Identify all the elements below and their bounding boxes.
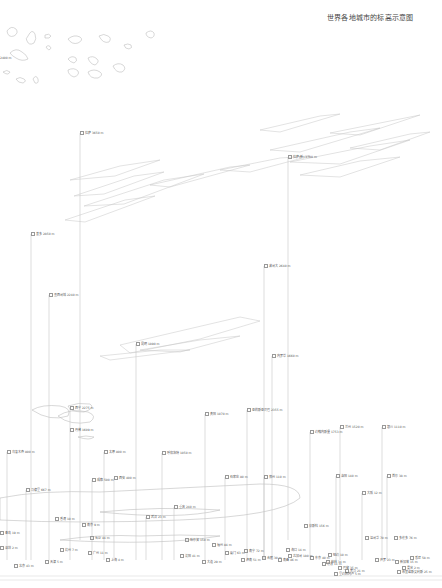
city-name-elevation: 大阪 12 m <box>367 491 382 495</box>
city-name-elevation: 郑州 110 m <box>269 475 286 479</box>
city-elevation-label: 重庆 240 m <box>174 505 196 509</box>
marker-square-icon <box>286 548 290 552</box>
marker-square-icon <box>272 354 276 358</box>
city-elevation-label: 香港 10 m <box>55 517 75 521</box>
city-elevation-label: 温哥华 70 m <box>365 536 388 540</box>
marker-square-icon <box>387 474 391 478</box>
marker-square-icon <box>55 517 59 521</box>
city-elevation-label: 上海 4 m <box>106 558 124 562</box>
city-name-elevation: 新加坡 15 m <box>400 560 418 564</box>
city-name-elevation: 南京 9 m <box>87 523 100 527</box>
city-elevation-label: 济南 51 m <box>241 558 261 562</box>
city-elevation-label: 南昌 46 m <box>278 558 298 562</box>
marker-square-icon <box>212 543 216 547</box>
city-elevation-label: 大连 29 m <box>202 560 222 564</box>
city-name-elevation: 厦门 63 m <box>230 551 245 555</box>
marker-square-icon <box>328 553 332 557</box>
marker-square-icon <box>288 554 292 558</box>
marker-square-icon <box>278 558 282 562</box>
marker-square-icon <box>70 428 74 432</box>
city-name-elevation: 拉萨(新) 3700 m <box>293 155 317 159</box>
marker-square-icon <box>338 566 342 570</box>
city-name-elevation: 贵阳 1070 m <box>210 412 228 416</box>
city-name-elevation: 北京 43 m <box>19 564 34 568</box>
city-elevation-label: 郑州 110 m <box>264 475 286 479</box>
marker-square-icon <box>304 524 308 528</box>
city-elevation-label: 福州 84 m <box>212 543 232 547</box>
marker-square-icon <box>382 425 386 429</box>
city-name-elevation: 南昌 46 m <box>283 558 298 562</box>
city-elevation-label: 西宁 2275 m <box>70 406 93 410</box>
city-elevation-label: 兰州 1520 m <box>340 425 363 429</box>
city-elevation-label: 北京 43 m <box>14 564 34 568</box>
city-name-elevation: 海口 14 m <box>291 548 306 552</box>
city-elevation-label: 首尔 38 m <box>387 474 407 478</box>
marker-square-icon <box>334 572 338 576</box>
city-name-elevation: 哈尔滨 150 m <box>190 538 210 542</box>
city-name-elevation: 沈阳 41 m <box>185 554 200 558</box>
marker-square-icon <box>80 131 84 135</box>
marker-square-icon <box>88 551 92 555</box>
city-elevation-label: 柏林 34 m <box>326 560 346 564</box>
marker-square-icon <box>92 478 96 482</box>
city-elevation-label: 悉尼 58 m <box>410 556 430 560</box>
city-elevation-label: 哈尔滨 150 m <box>185 538 210 542</box>
city-elevation-label: 呼和浩特 1050 m <box>162 451 191 455</box>
city-name-elevation: 马德里 667 m <box>31 488 51 492</box>
elevation-stems <box>7 133 387 560</box>
city-name-elevation: 洛阳 140 m <box>341 474 358 478</box>
city-elevation-label: 开罗 23 m <box>375 558 395 562</box>
city-elevation-label: 南京 9 m <box>82 523 100 527</box>
city-elevation-label: 乌鲁木齐 800 m <box>7 450 35 454</box>
city-elevation-label: 贵阳 1070 m <box>205 412 228 416</box>
city-name-elevation: 福州 84 m <box>217 543 232 547</box>
city-name-elevation: 长沙 44 m <box>95 536 110 540</box>
city-elevation-label: 厦门 63 m <box>225 551 245 555</box>
city-elevation-label: 银川 1110 m <box>382 425 405 429</box>
city-name-elevation: 太原 800 m <box>109 450 126 454</box>
city-name-elevation: 芝加哥 180 m <box>293 554 313 558</box>
marker-square-icon <box>410 556 414 560</box>
city-elevation-label: 大阪 12 m <box>362 491 382 495</box>
city-name-elevation: 基多 2850 m <box>36 232 54 236</box>
city-name-elevation: 温哥华 70 m <box>370 536 388 540</box>
city-name-elevation: 武汉 23 m <box>151 515 166 519</box>
city-name-elevation: 南宁 72 m <box>249 549 264 553</box>
city-elevation-label: 长沙 44 m <box>90 536 110 540</box>
marker-square-icon <box>31 232 35 236</box>
marker-square-icon <box>264 475 268 479</box>
marker-square-icon <box>104 450 108 454</box>
city-name-elevation: 纽约 10 m <box>333 553 348 557</box>
city-name-elevation: 悉尼 58 m <box>415 556 430 560</box>
city-name-elevation: 兰州 1520 m <box>345 425 363 429</box>
city-name-elevation: 亚的斯亚贝巴 2355 m <box>252 408 282 412</box>
marker-square-icon <box>340 425 344 429</box>
city-elevation-label: 杭州 7 m <box>60 548 78 552</box>
city-elevation-label: 深圳 2 m <box>0 546 18 550</box>
marker-square-icon <box>0 546 4 550</box>
city-elevation-label: 纽约 10 m <box>328 553 348 557</box>
marker-square-icon <box>247 408 251 412</box>
city-name-elevation: 西宁 2275 m <box>75 406 93 410</box>
city-elevation-label: 武汉 23 m <box>146 515 166 519</box>
city-elevation-label: 墨西哥城 2240 m <box>49 293 78 297</box>
city-elevation-label: 广州 11 m <box>88 551 108 555</box>
city-name-elevation: 济南 51 m <box>246 558 261 562</box>
city-elevation-label: 内罗毕 1660 m <box>272 354 298 358</box>
marker-square-icon <box>394 536 398 540</box>
marker-square-icon <box>185 538 189 542</box>
marker-square-icon <box>45 560 49 564</box>
city-elevation-label: 洛阳 140 m <box>336 474 358 478</box>
city-name-elevation: 石家庄 80 m <box>230 475 248 479</box>
city-name-elevation: 内罗毕 1660 m <box>277 354 298 358</box>
city-elevation-label: 成都 500 m <box>92 478 114 482</box>
city-elevation-label: 拉萨(新) 3700 m <box>288 155 317 159</box>
marker-square-icon <box>288 155 292 159</box>
marker-square-icon <box>264 264 268 268</box>
city-name-elevation: 大连 29 m <box>207 560 222 564</box>
marker-square-icon <box>146 515 150 519</box>
city-name-elevation: 首尔 38 m <box>392 474 407 478</box>
city-name-elevation: 杭州 7 m <box>65 548 78 552</box>
marker-square-icon <box>397 570 401 574</box>
city-name-elevation: 昆明 1890 m <box>141 342 159 346</box>
